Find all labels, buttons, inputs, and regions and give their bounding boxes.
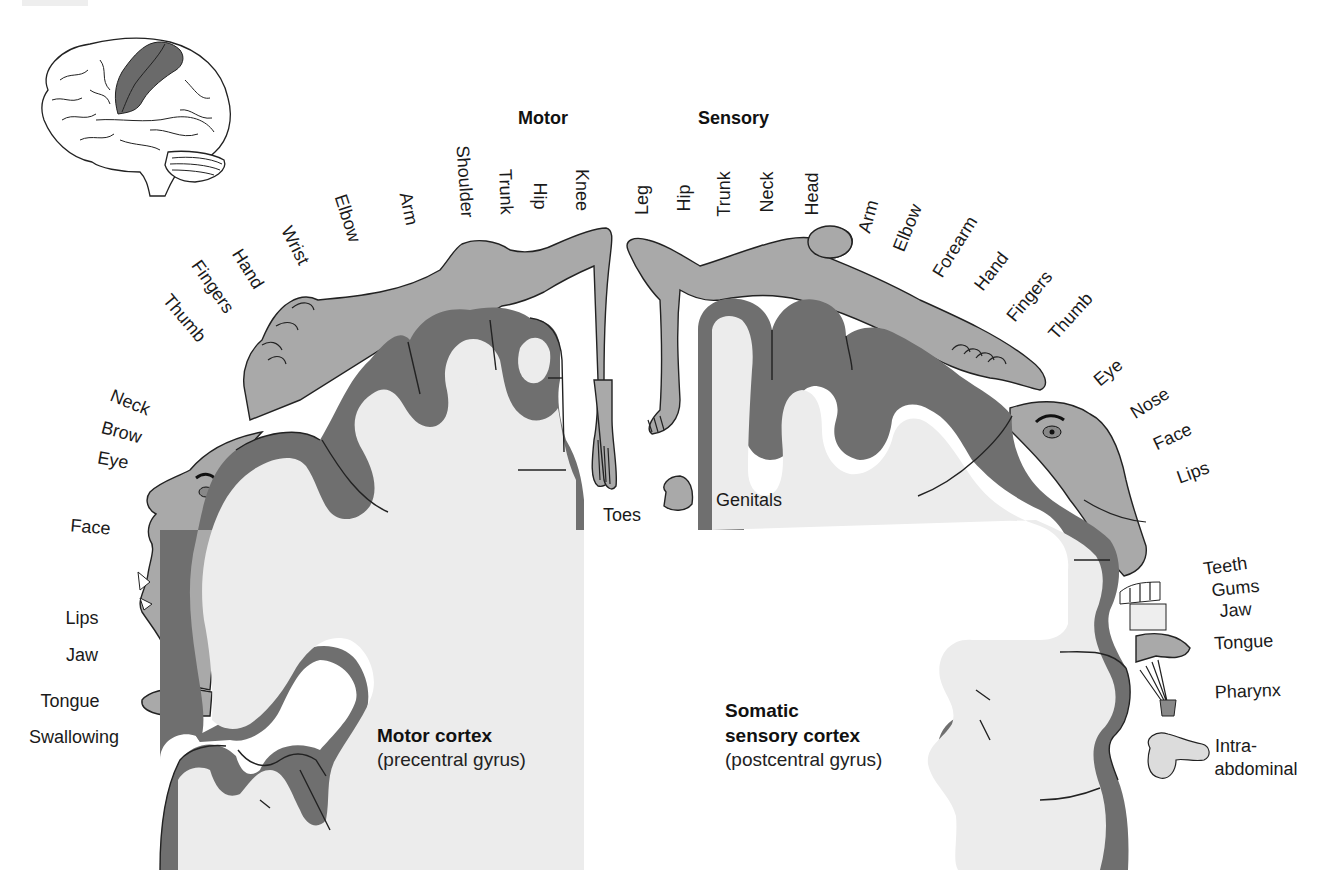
label-thumb: Thumb (159, 290, 210, 346)
label-brow: Brow (99, 417, 145, 447)
inset-brain-icon (42, 38, 230, 196)
genitals-label: Genitals (716, 490, 782, 510)
label-wrist: Wrist (277, 223, 313, 268)
label-fingers: Fingers (1002, 267, 1056, 326)
label-eye: Eye (1090, 355, 1127, 390)
motor-face-labels: NeckBrowEyeFaceLipsJawTongueSwallowing (29, 385, 154, 747)
label-head: Head (802, 172, 822, 215)
label-neck: Neck (757, 170, 777, 212)
label-tongue: Tongue (1214, 630, 1274, 653)
motor-header: Motor (518, 108, 568, 128)
label-hand: Hand (970, 248, 1012, 294)
label-knee: Knee (572, 169, 592, 211)
motor-hemisphere (138, 228, 616, 870)
label-face: Face (1150, 419, 1195, 454)
sensory-mouth-labels: TeethGumsJawTonguePharynxIntra-abdominal (1202, 553, 1298, 779)
label-elbow: Elbow (331, 192, 365, 246)
motor-cortex-title: Motor cortex (377, 725, 493, 746)
label-trunk: Trunk (714, 170, 734, 216)
label-eye: Eye (96, 448, 130, 473)
label-lips: Lips (1174, 457, 1212, 487)
label-hand: Hand (228, 245, 268, 292)
motor-cortex-subtitle: (precentral gyrus) (377, 749, 526, 770)
label-arm: Arm (854, 198, 882, 235)
label-hip: Hip (674, 184, 694, 211)
label-nose: Nose (1127, 383, 1173, 422)
label-face: Face (70, 515, 112, 538)
label-abdominal: abdominal (1214, 759, 1297, 779)
label-elbow: Elbow (889, 200, 926, 254)
label-jaw: Jaw (66, 645, 99, 665)
label-teeth: Teeth (1202, 553, 1248, 579)
label-gums: Gums (1210, 576, 1260, 601)
label-arm: Arm (396, 191, 422, 227)
label-pharynx: Pharynx (1214, 680, 1281, 702)
label-fingers: Fingers (188, 256, 239, 317)
label-trunk: Trunk (495, 169, 517, 216)
label-jaw: Jaw (1219, 599, 1253, 621)
label-lips: Lips (65, 608, 98, 628)
sensory-cortex-title-2: sensory cortex (725, 725, 861, 746)
label-leg: Leg (632, 185, 652, 215)
top-strip (22, 0, 88, 6)
sensory-cortex-title-1: Somatic (725, 700, 799, 721)
toes-label: Toes (603, 505, 641, 525)
label-forearm: Forearm (928, 213, 981, 281)
label-neck: Neck (107, 385, 153, 419)
label-intra: Intra- (1215, 736, 1257, 756)
label-hip: Hip (530, 182, 550, 209)
sensory-cortex-subtitle: (postcentral gyrus) (725, 749, 882, 770)
label-shoulder: Shoulder (452, 145, 477, 218)
sensory-header: Sensory (698, 108, 769, 128)
label-tongue: Tongue (40, 691, 99, 711)
label-thumb: Thumb (1044, 288, 1096, 343)
homunculus-diagram: Motor Sensory ThumbFingersHandWristElbow… (0, 0, 1340, 896)
label-swallowing: Swallowing (29, 727, 119, 747)
sensory-hemisphere (627, 226, 1209, 870)
